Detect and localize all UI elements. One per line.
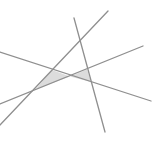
- line-a: [0, 11, 108, 125]
- line-c: [0, 52, 151, 101]
- line-d: [0, 46, 143, 104]
- intersecting-lines-diagram: [0, 0, 154, 153]
- lines: [0, 11, 151, 132]
